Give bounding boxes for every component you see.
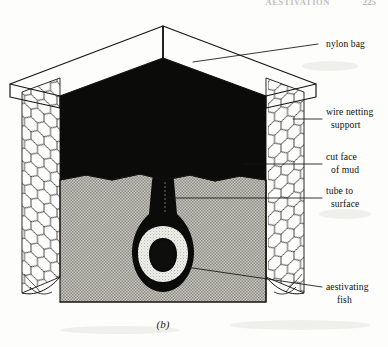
label-tube-to-surface-line2: surface: [331, 198, 359, 209]
figure-illustration: nylon bag wire netting support cut face …: [0, 0, 388, 347]
label-aestivating-fish: aestivating: [326, 281, 369, 292]
leader-nylon-bag: [193, 44, 318, 62]
label-wire-netting-line2: support: [331, 119, 361, 130]
label-tube-to-surface: tube to: [326, 185, 353, 196]
label-cut-face-of-mud: cut face: [326, 151, 357, 162]
figure-caption: (b): [157, 318, 170, 331]
figure-labels: nylon bag wire netting support cut face …: [326, 38, 373, 305]
label-nylon-bag: nylon bag: [326, 38, 365, 49]
label-wire-netting: wire netting: [326, 106, 373, 117]
figure-aestivating-fish: AESTIVATION 225: [0, 0, 388, 347]
nylon-bag-interior: [60, 58, 266, 181]
label-aestivating-fish-line2: fish: [337, 294, 352, 305]
label-cut-face-of-mud-line2: of mud: [331, 164, 359, 175]
